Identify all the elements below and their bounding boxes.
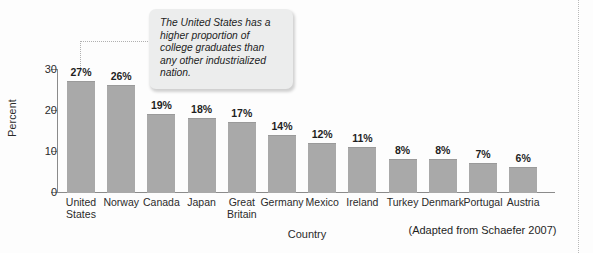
bar bbox=[107, 85, 135, 193]
x-axis-title: Country bbox=[262, 228, 352, 240]
bar-value-label: 11% bbox=[340, 133, 384, 144]
bar-value-label: 6% bbox=[501, 153, 545, 164]
y-axis-spine bbox=[57, 69, 58, 193]
bar-value-label: 12% bbox=[300, 129, 344, 140]
bar bbox=[147, 114, 175, 193]
bar-value-label: 18% bbox=[180, 104, 224, 115]
y-axis-tick-label: 30 bbox=[27, 64, 57, 75]
bar-value-label: 8% bbox=[381, 145, 425, 156]
bar-value-label: 26% bbox=[99, 71, 143, 82]
bar bbox=[268, 135, 296, 193]
y-axis-tick-label: 0 bbox=[27, 187, 57, 198]
y-axis-tick-label: 10 bbox=[27, 146, 57, 157]
bar-chart-plot: 0102030 Percent Country 27%United States… bbox=[0, 0, 593, 253]
bar bbox=[228, 122, 256, 193]
bar-value-label: 8% bbox=[421, 145, 465, 156]
chart-page: 0102030 Percent Country 27%United States… bbox=[0, 0, 593, 253]
bar bbox=[469, 163, 497, 193]
bar bbox=[348, 147, 376, 193]
x-axis-category-label: Austria bbox=[499, 197, 547, 209]
bar bbox=[188, 118, 216, 193]
callout-leader-vertical bbox=[80, 41, 81, 68]
y-axis-title: Percent bbox=[6, 88, 18, 148]
bar bbox=[308, 143, 336, 193]
bar bbox=[509, 167, 537, 193]
attribution-text: (Adapted from Schaefer 2007) bbox=[390, 224, 575, 236]
bar bbox=[67, 81, 95, 193]
y-axis-tick-label: 20 bbox=[27, 105, 57, 116]
callout-box: The United States has a higher proportio… bbox=[149, 9, 293, 89]
bar bbox=[389, 159, 417, 193]
callout-leader-horizontal bbox=[80, 41, 150, 42]
bar-value-label: 17% bbox=[220, 108, 264, 119]
bar-value-label: 19% bbox=[139, 100, 183, 111]
bar-value-label: 27% bbox=[59, 67, 103, 78]
bar-value-label: 7% bbox=[461, 149, 505, 160]
bar-value-label: 14% bbox=[260, 121, 304, 132]
bar bbox=[429, 159, 457, 193]
